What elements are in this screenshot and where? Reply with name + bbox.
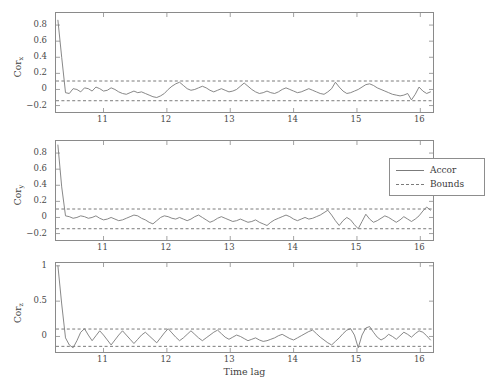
y-tick-label: 1 — [42, 261, 52, 270]
x-tick-label: 16 — [414, 354, 425, 364]
x-tick-label: 12 — [160, 242, 171, 252]
x-tick-label: 15 — [351, 354, 362, 364]
x-tick-label: 13 — [224, 242, 235, 252]
x-tick-label: 16 — [414, 114, 425, 124]
legend-entry-bounds: Bounds — [395, 177, 479, 191]
y-tick-label: 0.2 — [33, 68, 52, 77]
x-tick-label: 13 — [224, 114, 235, 124]
x-tick-label: 14 — [287, 242, 298, 252]
y-tick-label: 0 — [42, 84, 52, 93]
legend-label-accor: Accor — [430, 165, 456, 175]
x-tick-label: 13 — [224, 354, 235, 364]
panel-cor-x: Corx −0.200.20.40.60.8 111213141516 — [0, 0, 446, 132]
plot-area-cor-x — [55, 12, 434, 113]
y-tick-label: 0.8 — [33, 148, 52, 157]
x-tick-label: 14 — [287, 354, 298, 364]
plot-svg-cor-z — [56, 263, 433, 352]
legend-label-bounds: Bounds — [430, 179, 464, 189]
plot-area-cor-z — [55, 262, 434, 353]
y-tick-label: 0 — [42, 331, 52, 340]
y-tick-label: 0.4 — [33, 52, 52, 61]
y-axis-ticks-panel-y: −0.200.20.40.60.8 — [0, 140, 52, 241]
x-tick-label: 11 — [97, 114, 108, 124]
y-tick-label: −0.2 — [26, 100, 52, 109]
x-tick-label: 12 — [160, 354, 171, 364]
y-tick-label: 0.5 — [33, 296, 52, 305]
legend-solid-line-icon — [395, 165, 425, 175]
plot-area-cor-y: Accor Bounds — [55, 140, 434, 241]
x-tick-label: 12 — [160, 114, 171, 124]
panel-cor-z: Corz 00.51 111213141516 Time lag — [0, 256, 446, 379]
legend-dashed-line-icon — [395, 179, 425, 189]
x-tick-label: 16 — [414, 242, 425, 252]
y-axis-ticks-panel-x: −0.200.20.40.60.8 — [0, 12, 52, 113]
x-tick-label: 15 — [351, 114, 362, 124]
y-tick-label: 0 — [42, 212, 52, 221]
panel-cor-y: Cory −0.200.20.40.60.8 Accor Bounds 1112… — [0, 128, 446, 260]
legend-entry-accor: Accor — [395, 163, 479, 177]
plot-svg-cor-x — [56, 13, 433, 112]
x-axis-ticks-panel-y: 111213141516 — [55, 242, 434, 256]
x-tick-label: 14 — [287, 114, 298, 124]
y-tick-label: −0.2 — [26, 228, 52, 237]
x-tick-label: 11 — [97, 354, 108, 364]
x-tick-label: 11 — [97, 242, 108, 252]
y-tick-label: 0.8 — [33, 20, 52, 29]
legend: Accor Bounds — [389, 158, 485, 196]
y-tick-label: 0.6 — [33, 36, 52, 45]
y-tick-label: 0.4 — [33, 180, 52, 189]
x-axis-ticks-panel-x: 111213141516 — [55, 114, 434, 128]
plot-svg-cor-y — [56, 141, 433, 240]
y-tick-label: 0.6 — [33, 164, 52, 173]
y-tick-label: 0.2 — [33, 196, 52, 205]
x-axis-label: Time lag — [55, 366, 434, 377]
x-tick-label: 15 — [351, 242, 362, 252]
y-axis-ticks-panel-z: 00.51 — [0, 262, 52, 353]
